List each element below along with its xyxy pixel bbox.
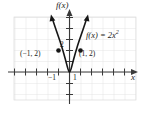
y-axis-label: f(x) <box>56 1 69 10</box>
equation-text: f(x) = 2x <box>86 30 116 40</box>
point-label-right: (1, 2) <box>79 50 95 58</box>
y-tick-label-2: 2 <box>60 41 64 49</box>
graph-figure: f(x) x f(x) = 2x2 (−1, 2) (1, 2) −1 1 2 <box>0 0 144 116</box>
x-tick-label-1: 1 <box>73 74 77 82</box>
coordinate-plane <box>0 0 144 116</box>
point-label-left: (−1, 2) <box>20 50 40 58</box>
equation-label: f(x) = 2x2 <box>86 29 119 39</box>
x-tick-label-neg1: −1 <box>48 74 56 82</box>
x-axis-label: x <box>131 73 135 82</box>
equation-exponent: 2 <box>116 29 119 35</box>
